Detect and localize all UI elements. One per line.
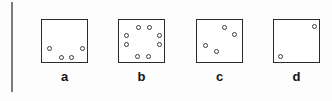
panel-label-a: a	[41, 70, 88, 83]
dot-marker	[203, 43, 208, 48]
panel-c	[196, 19, 243, 63]
dot-marker	[312, 24, 317, 29]
dot-marker	[147, 25, 152, 30]
dot-marker	[69, 55, 74, 60]
dot-marker	[124, 33, 129, 38]
panel-a	[41, 19, 88, 63]
panel-d	[273, 19, 320, 63]
dot-marker	[59, 55, 64, 60]
dot-marker	[157, 42, 162, 47]
dot-marker	[232, 32, 237, 37]
dot-marker	[136, 25, 141, 30]
dot-marker	[222, 25, 227, 30]
dot-marker	[80, 46, 85, 51]
panel-label-c: c	[196, 70, 243, 83]
dot-marker	[214, 49, 219, 54]
dot-marker	[157, 33, 162, 38]
dot-marker	[135, 54, 140, 59]
left-margin-rule	[11, 2, 13, 92]
panel-box-a	[41, 19, 88, 63]
panel-box-d	[273, 19, 320, 63]
panel-box-b	[118, 19, 165, 63]
panel-label-b: b	[118, 70, 165, 83]
dot-marker	[47, 46, 52, 51]
panel-box-c	[196, 19, 243, 63]
dot-marker	[146, 54, 151, 59]
panel-b	[118, 19, 165, 63]
dot-marker	[278, 54, 283, 59]
figure-container: abcd	[0, 0, 332, 101]
panel-label-d: d	[273, 70, 320, 83]
dot-marker	[124, 42, 129, 47]
